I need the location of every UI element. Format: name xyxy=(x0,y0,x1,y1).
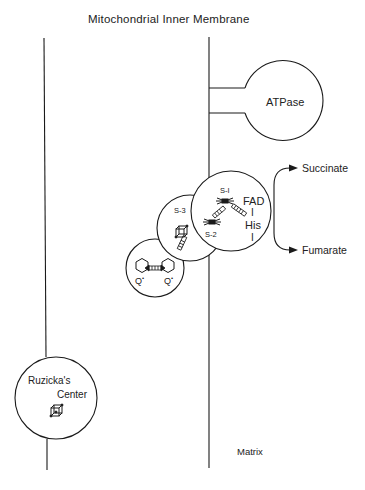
s1-circle xyxy=(191,171,271,251)
s2-cluster-icon xyxy=(203,219,221,225)
fumarate-arrowhead xyxy=(289,247,298,254)
outer-membrane-line-top xyxy=(44,38,46,357)
ruzicka-label-line1: Ruzicka's xyxy=(28,376,70,386)
diagram-canvas: Mitochondrial Inner Membrane ATPase Succ… xyxy=(0,0,365,490)
s1-label: S-I xyxy=(220,187,230,195)
s1-cluster-icon xyxy=(216,198,234,204)
fumarate-label: Fumarate xyxy=(302,245,347,256)
reaction-bracket xyxy=(274,168,290,250)
his-label: His xyxy=(245,220,261,231)
matrix-label: Matrix xyxy=(237,447,263,457)
diagram-title: Mitochondrial Inner Membrane xyxy=(88,14,250,26)
succinate-label: Succinate xyxy=(302,163,348,174)
atpase-stalk xyxy=(209,88,245,113)
succinate-arrowhead xyxy=(289,165,298,172)
quinone-right-label: Q• xyxy=(164,275,173,286)
q-right-radical: • xyxy=(171,275,173,281)
fad-his-bond: I xyxy=(251,208,254,218)
q-left-text: Q xyxy=(135,276,142,286)
q-right-text: Q xyxy=(164,276,171,286)
his-bond: I xyxy=(251,233,254,243)
q-left-radical: • xyxy=(142,275,144,281)
atpase-label: ATPase xyxy=(266,97,304,108)
fad-label: FAD xyxy=(243,196,264,207)
s3-label: S-3 xyxy=(174,207,186,215)
s2-label: S-2 xyxy=(205,231,217,239)
ruzicka-label-line2: Center xyxy=(57,390,87,400)
quinone-left-label: Q• xyxy=(135,275,144,286)
